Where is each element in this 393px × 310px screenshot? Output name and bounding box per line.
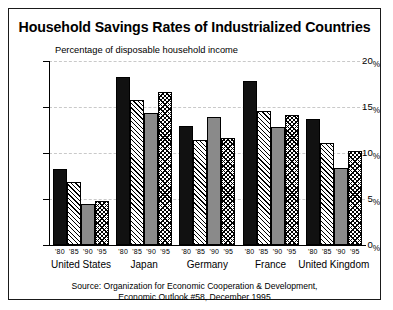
bar (257, 111, 271, 245)
y-tick-mark (43, 153, 50, 154)
year-tick-label: '85 (257, 248, 271, 255)
chart-frame: Household Savings Rates of Industrialize… (8, 8, 381, 300)
year-tick-label: '85 (320, 248, 334, 255)
bar (285, 115, 299, 245)
y-tick-percent-sign: % (373, 152, 380, 161)
source-note: Source: Organization for Economic Cooper… (9, 281, 380, 302)
bar (243, 81, 257, 245)
year-tick-label: '90 (207, 248, 221, 255)
bar (116, 77, 130, 245)
chart-subtitle: Percentage of disposable household incom… (55, 45, 238, 55)
year-tick-label: '95 (221, 248, 235, 255)
bar (95, 201, 109, 245)
group-year-labels: '80'85'90'95 (110, 248, 178, 255)
bar (81, 204, 95, 245)
bar (158, 92, 172, 245)
source-line-1: Source: Organization for Economic Cooper… (9, 281, 380, 292)
bar (271, 127, 285, 245)
y-tick-percent-sign: % (373, 106, 380, 115)
bar (179, 126, 193, 245)
bar-group (179, 61, 235, 245)
y-tick-percent-sign: % (373, 244, 380, 253)
bar (334, 168, 348, 245)
bar (67, 182, 81, 245)
year-tick-label: '80 (53, 248, 67, 255)
bar (306, 119, 320, 245)
y-tick-number: 0 (367, 239, 372, 250)
bar (348, 151, 362, 245)
year-tick-label: '90 (81, 248, 95, 255)
year-tick-label: '95 (348, 248, 362, 255)
bar (320, 143, 334, 245)
year-tick-label: '85 (67, 248, 81, 255)
group-year-labels: '80'85'90'95 (237, 248, 305, 255)
year-tick-label: '95 (95, 248, 109, 255)
y-tick-percent-sign: % (373, 198, 380, 207)
year-tick-label: '90 (144, 248, 158, 255)
y-tick-number: 15 (362, 101, 373, 112)
year-tick-label: '90 (271, 248, 285, 255)
year-tick-label: '80 (116, 248, 130, 255)
group-year-labels: '80'85'90'95 (300, 248, 368, 255)
bar-group (243, 61, 299, 245)
bar-group (306, 61, 362, 245)
year-tick-label: '90 (334, 248, 348, 255)
year-tick-label: '95 (158, 248, 172, 255)
bar (207, 117, 221, 245)
chart-title: Household Savings Rates of Industrialize… (9, 19, 380, 35)
bar (144, 113, 158, 245)
bar (221, 138, 235, 245)
y-tick-mark (43, 199, 50, 200)
y-tick-mark (43, 61, 50, 62)
x-axis-line (49, 245, 366, 246)
bar-group (53, 61, 109, 245)
bar-group (116, 61, 172, 245)
source-line-2: Economic Outlook #58, December 1995 (9, 292, 380, 303)
y-tick-number: 10 (362, 147, 373, 158)
y-tick-number: 20 (362, 55, 373, 66)
y-tick-mark (43, 107, 50, 108)
country-label: United Kingdom (278, 259, 390, 270)
year-tick-label: '85 (193, 248, 207, 255)
group-year-labels: '80'85'90'95 (47, 248, 115, 255)
year-tick-label: '80 (179, 248, 193, 255)
group-year-labels: '80'85'90'95 (173, 248, 241, 255)
y-tick-number: 5 (367, 193, 372, 204)
bar (193, 140, 207, 245)
year-tick-label: '80 (243, 248, 257, 255)
bar (53, 169, 67, 245)
y-tick-percent-sign: % (373, 60, 380, 69)
bar (130, 100, 144, 245)
year-tick-label: '80 (306, 248, 320, 255)
year-tick-label: '95 (285, 248, 299, 255)
year-tick-label: '85 (130, 248, 144, 255)
y-tick-mark (43, 245, 50, 246)
